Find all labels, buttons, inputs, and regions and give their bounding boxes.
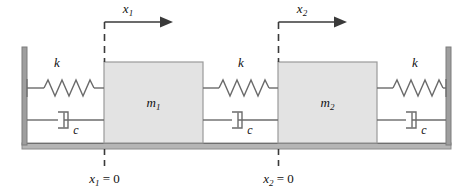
spring-k-left [27, 79, 104, 97]
damper-c-middle [203, 112, 278, 128]
damper-label-c-middle: c [247, 123, 253, 137]
spring-label-k-middle: k [238, 55, 244, 70]
arrowhead-x2 [334, 17, 347, 28]
damper-label-c-left: c [73, 123, 79, 137]
spring-label-k-right: k [412, 55, 418, 70]
origin-label-x1: x1 = 0 [88, 171, 120, 188]
spring-k-middle [203, 80, 278, 96]
damper-label-c-right: c [421, 123, 427, 137]
spring-k-right [377, 79, 446, 97]
origin-label-x2: x2 = 0 [262, 171, 294, 188]
diagram-canvas: m1 m2 k c [0, 0, 475, 188]
ground-support [22, 143, 451, 149]
mass-block-m1: m1 [104, 62, 203, 143]
coordinate-label-x2: x2 [296, 1, 308, 18]
damper-c-right [377, 112, 446, 128]
coordinate-arrow-x1 [105, 17, 174, 63]
right-wall [446, 47, 451, 145]
arrowhead-x1 [160, 17, 173, 28]
damper-c-left [27, 112, 104, 128]
left-wall [22, 47, 27, 145]
coordinate-label-x1: x1 [122, 1, 133, 18]
spring-label-k-left: k [54, 55, 60, 70]
mass-spring-damper-diagram: m1 m2 k c [0, 0, 475, 188]
coordinate-arrow-x2 [279, 17, 348, 63]
mass-block-m2: m2 [278, 62, 377, 143]
